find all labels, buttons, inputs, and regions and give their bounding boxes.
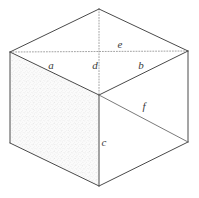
label-a: a [48,59,54,71]
label-d: d [92,59,98,71]
label-b: b [138,59,144,71]
label-c: c [102,136,107,148]
label-e: e [118,38,123,50]
cube-diagram-svg: a d b e f c [0,0,199,198]
cube-figure: a d b e f c [0,0,199,198]
